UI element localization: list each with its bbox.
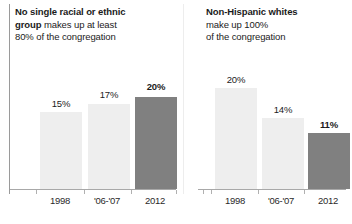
x-tick-left-0607	[84, 190, 85, 194]
x-axis-line-right	[198, 189, 346, 190]
bar-value-label-right-2012: 11%	[308, 119, 350, 130]
x-tick-right-start	[203, 190, 204, 194]
x-tick-label-left-2012: 2012	[131, 195, 179, 206]
bar-left-0607[interactable]	[88, 104, 130, 189]
x-tick-label-left-0607: '06-'07	[83, 195, 131, 206]
chart-panel-right: Non-Hispanic whites make up 100% of the …	[183, 0, 346, 224]
bar-value-label-left-2012: 20%	[135, 81, 177, 92]
bar-left-2012[interactable]	[135, 97, 177, 189]
bar-value-label-left-1998: 15%	[40, 98, 82, 109]
bar-right-2012[interactable]	[308, 133, 350, 189]
x-tick-label-right-1998: 1998	[211, 195, 259, 206]
x-tick-right-1998	[211, 190, 212, 194]
chart-panel-left: No single racial or ethnic group makes u…	[0, 0, 183, 224]
x-tick-label-right-2012: 2012	[304, 195, 352, 206]
x-tick-right-2012	[304, 190, 305, 194]
bar-right-1998[interactable]	[215, 88, 257, 189]
x-axis-line-left	[10, 189, 176, 190]
bar-value-label-right-0607: 14%	[262, 104, 304, 115]
bar-left-1998[interactable]	[40, 112, 82, 189]
x-tick-left-2012	[131, 190, 132, 194]
x-tick-label-left-1998: 1998	[36, 195, 84, 206]
x-tick-label-right-0607: '06-'07	[257, 195, 305, 206]
bar-right-0607[interactable]	[262, 118, 304, 189]
bar-value-label-right-1998: 20%	[215, 74, 257, 85]
plot-area-right: 20% 14% 11% 1998 '06-'07 2012	[183, 0, 346, 224]
bar-value-label-left-0607: 17%	[88, 89, 130, 100]
x-tick-left-end	[176, 190, 177, 194]
x-tick-left-1998	[36, 190, 37, 194]
plot-area-left: 15% 17% 20% 1998 '06-'07 2012	[0, 0, 183, 224]
x-tick-right-0607	[258, 190, 259, 194]
